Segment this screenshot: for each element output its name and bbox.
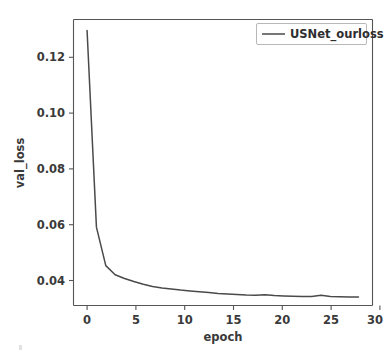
line-chart: 0.04 0.06 0.08 0.10 0.12 0 5 10 15 20 25 [0,0,392,359]
y-tick-label: 0.04 [37,274,65,288]
x-tick-label: 0 [83,313,91,327]
x-tick-label: 10 [177,313,193,327]
x-tick-label: 25 [323,313,339,327]
y-tick-label: 0.12 [37,50,65,64]
y-tick-label: 0.08 [37,162,65,176]
legend-label-usnet-ourloss: USNet_ourloss [290,27,384,42]
y-tick-label: 0.10 [37,106,65,120]
y-axis-title: val_loss [13,138,28,189]
y-tick-label: 0.06 [37,218,65,232]
x-axis-title: epoch [204,330,243,344]
x-tick-label: 20 [274,313,290,327]
x-tick-label: 30 [367,313,383,327]
figure-canvas: 0.04 0.06 0.08 0.10 0.12 0 5 10 15 20 25 [0,0,392,359]
x-tick-label: 15 [225,313,241,327]
scan-speck [19,345,22,350]
legend[interactable]: USNet_ourloss [257,24,384,45]
x-tick-label: 5 [132,313,140,327]
